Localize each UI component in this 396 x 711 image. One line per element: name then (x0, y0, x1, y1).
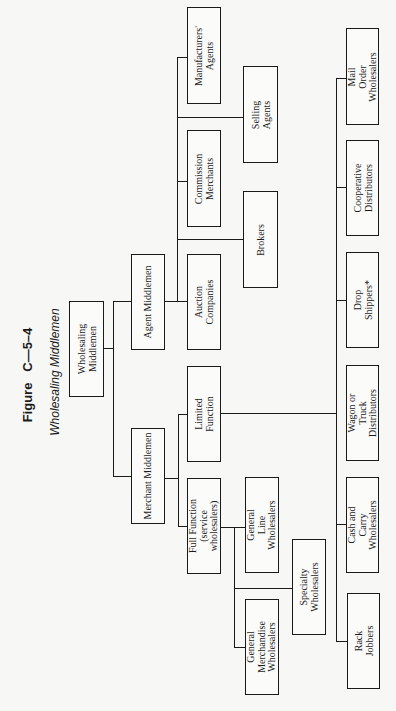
node-label: Cooperative Distributors (352, 164, 373, 213)
connector (221, 527, 245, 528)
connector (177, 117, 243, 118)
connector (113, 301, 114, 477)
node-label: Auction Companies (194, 280, 215, 325)
node-auction-companies: Auction Companies (187, 254, 221, 350)
node-limited-function: Limited Function (187, 366, 221, 462)
connector (221, 413, 336, 414)
node-drop-shippers: Drop Shippers* (346, 252, 379, 348)
node-full-function: Full Function (service wholesalers) (187, 478, 221, 574)
node-label: General Merchandise Wholesalers (246, 621, 278, 673)
connector (177, 181, 187, 182)
connector (234, 588, 292, 589)
node-wagon-truck-distributors: Wagon or Truck Distributors (346, 365, 379, 461)
node-manufacturers-agents: Manufacturers' Agents (187, 7, 221, 104)
node-general-merchandise-wholesalers: General Merchandise Wholesalers (245, 599, 279, 695)
node-wholesaling-middlemen: Wholesaling Middlemen (69, 301, 104, 397)
node-label: Wagon or Truck Distributors (347, 389, 379, 437)
connector (165, 478, 179, 479)
connector (234, 647, 245, 648)
node-selling-agents: Selling Agents (243, 66, 278, 163)
figure-number: Figure C—5–4 (20, 328, 35, 423)
node-label: Limited Function (194, 396, 215, 432)
connector (336, 300, 346, 301)
figure-caption: Figure C—5–4 Wholesaling Middlemen (14, 290, 74, 460)
node-label: Rack Jobbers (353, 626, 374, 657)
node-rack-jobbers: Rack Jobbers (347, 593, 380, 689)
figure-title: Wholesaling Middlemen (48, 308, 62, 435)
connector (177, 57, 178, 302)
node-label: General Line Wholesalers (246, 500, 278, 549)
node-general-line-wholesalers: General Line Wholesalers (245, 477, 279, 573)
node-label: Selling Agents (250, 100, 271, 128)
node-label: Mail Order Wholesalers (347, 52, 379, 101)
connector (336, 78, 346, 79)
node-agent-middlemen: Agent Middlemen (131, 254, 165, 350)
node-label: Wholesaling Middlemen (76, 324, 97, 375)
connector (165, 301, 187, 302)
connector (336, 641, 347, 642)
connector (178, 414, 179, 527)
connector (178, 526, 187, 527)
node-cooperative-distributors: Cooperative Distributors (346, 140, 379, 236)
node-mail-order-wholesalers: Mail Order Wholesalers (346, 28, 379, 125)
node-label: Agent Middlemen (143, 265, 154, 338)
node-label: Merchant Middlemen (143, 433, 154, 520)
connector (177, 239, 243, 240)
connector (336, 187, 346, 188)
node-label: Full Function (service wholesalers) (188, 499, 220, 553)
node-commission-merchants: Commission Merchants (187, 130, 221, 227)
node-cash-and-carry-wholesalers: Cash and Carry Wholesalers (346, 477, 379, 573)
connector (178, 414, 187, 415)
node-label: Manufacturers' Agents (194, 25, 215, 85)
node-label: Specialty Wholesalers (299, 562, 320, 611)
connector (113, 476, 131, 477)
node-label: Drop Shippers* (352, 280, 373, 320)
node-specialty-wholesalers: Specialty Wholesalers (292, 539, 326, 635)
connector (336, 524, 346, 525)
node-brokers: Brokers (243, 191, 278, 288)
node-label: Brokers (255, 224, 266, 256)
node-label: Cash and Carry Wholesalers (347, 500, 379, 549)
connector (336, 78, 337, 642)
connector (177, 57, 187, 58)
connector (113, 301, 131, 302)
node-merchant-middlemen: Merchant Middlemen (131, 428, 165, 524)
node-label: Commission Merchants (194, 153, 215, 204)
